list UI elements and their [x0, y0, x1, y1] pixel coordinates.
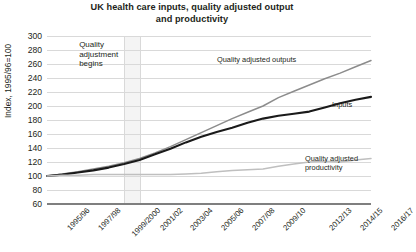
x-axis-ticks: 1995/961997/981999/20002001/022003/04200… [47, 206, 371, 250]
y-axis-tick-label: 300 [28, 31, 42, 41]
chart-title: UK health care inputs, quality adjusted … [0, 2, 384, 25]
y-axis-tick-label: 120 [28, 157, 42, 167]
y-axis-tick-label: 80 [32, 185, 42, 195]
plot-area: 3002802602402202001801601401201008060 Qu… [47, 36, 371, 204]
x-axis-tick-label: 2001/02 [158, 206, 184, 232]
quality-adjustment-annotation: Quality adjustment begins [79, 40, 118, 69]
x-axis-tick-label: 2007/08 [250, 206, 276, 232]
y-axis-tick-label: 240 [28, 73, 42, 83]
series-label-quality-adjusted-productivity: Quality adjusted productivity [305, 155, 358, 172]
series-label-quality-adjusted-outputs: Quality adjusted outputs [217, 56, 296, 65]
x-axis-tick-label: 1995/96 [65, 206, 91, 232]
y-axis-title: Index, 1995/96=100 [3, 44, 13, 118]
series-label-inputs: Inputs [332, 101, 352, 110]
y-axis-tick-label: 280 [28, 45, 42, 55]
y-axis-tick-label: 60 [32, 199, 42, 209]
x-axis-tick-label: 1997/98 [96, 206, 122, 232]
x-axis-tick-label: 2009/10 [281, 206, 307, 232]
x-axis-tick-label: 2016/17 [389, 206, 415, 232]
x-axis-tick-label: 2014/15 [358, 206, 384, 232]
y-axis-tick-label: 140 [28, 143, 42, 153]
x-axis-tick-label: 1999/2000 [129, 206, 161, 238]
y-axis-tick-label: 260 [28, 59, 42, 69]
y-axis-tick-label: 180 [28, 115, 42, 125]
x-axis-tick-label: 2005/06 [220, 206, 246, 232]
y-axis-tick-label: 100 [28, 171, 42, 181]
y-axis-tick-label: 200 [28, 101, 42, 111]
y-axis-tick-label: 220 [28, 87, 42, 97]
y-axis-tick-label: 160 [28, 129, 42, 139]
x-axis-tick-label: 2003/04 [189, 206, 215, 232]
x-axis-tick-label: 2012/13 [328, 206, 354, 232]
